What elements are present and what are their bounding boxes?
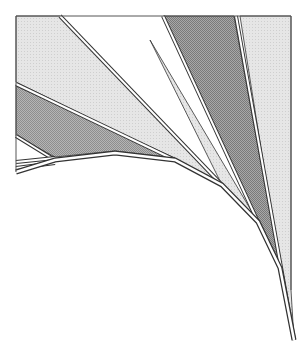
- fan-wedge-diagram: [0, 0, 307, 349]
- bands-layer: [16, 16, 294, 340]
- diagram-canvas: [0, 0, 307, 349]
